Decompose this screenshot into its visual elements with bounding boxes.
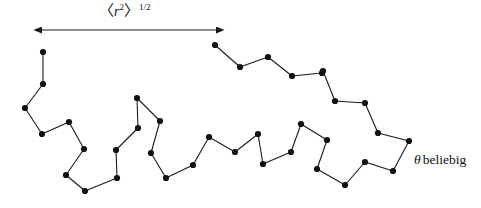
- chain-diagram-svg: [0, 0, 481, 208]
- chain-node: [232, 149, 238, 155]
- chain-monomer-nodes: [22, 42, 412, 194]
- chain-node: [157, 118, 163, 124]
- polymer-chain: [22, 42, 412, 194]
- chain-node: [237, 64, 243, 70]
- chain-node: [190, 162, 196, 168]
- chain-node: [113, 147, 119, 153]
- chain-node: [319, 70, 325, 76]
- chain-node: [260, 161, 266, 167]
- chain-node: [324, 137, 330, 143]
- chain-node: [66, 119, 72, 125]
- chain-node: [63, 172, 69, 178]
- chain-node: [135, 125, 141, 131]
- chain-node: [298, 121, 304, 127]
- chain-node: [255, 131, 261, 137]
- chain-node: [82, 188, 88, 194]
- chain-node: [40, 81, 46, 87]
- chain-node: [390, 168, 396, 174]
- chain-node: [40, 49, 46, 55]
- chain-node: [39, 131, 45, 137]
- chain-node: [163, 175, 169, 181]
- chain-node: [289, 73, 295, 79]
- chain-node: [406, 138, 412, 144]
- chain-node: [342, 182, 348, 188]
- chain-node: [22, 105, 28, 111]
- chain-node: [375, 130, 381, 136]
- chain-node: [362, 159, 368, 165]
- chain-node: [134, 95, 140, 101]
- chain-node: [114, 175, 120, 181]
- chain-node: [265, 54, 271, 60]
- chain-node: [362, 100, 368, 106]
- chain-node: [332, 98, 338, 104]
- chain-node: [148, 150, 154, 156]
- chain-bond-path: [25, 45, 409, 191]
- polymer-coil-figure: 〈r2〉1/2 θbeliebig: [0, 0, 481, 208]
- chain-node: [314, 166, 320, 172]
- chain-node: [212, 42, 218, 48]
- chain-node: [206, 134, 212, 140]
- chain-node: [288, 149, 294, 155]
- chain-node: [81, 146, 87, 152]
